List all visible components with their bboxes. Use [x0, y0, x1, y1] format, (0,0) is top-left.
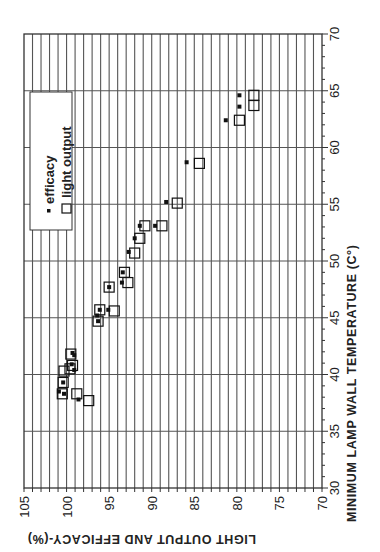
- y-axis-title: LIGHT OUTPUT AND EFFICACY-(%): [27, 532, 256, 546]
- legend: efficacy light output: [30, 92, 74, 230]
- efficacy-point: [164, 200, 168, 204]
- light-output-point: [234, 115, 244, 125]
- efficacy-point: [62, 392, 66, 396]
- legend-label-efficacy: efficacy: [42, 155, 57, 204]
- y-tick-label: 95: [102, 496, 117, 510]
- x-axis-title: MINIMUM LAMP WALL TEMPERATURE (C°): [345, 245, 359, 522]
- x-tick-label: 65: [327, 84, 342, 98]
- efficacy-point: [224, 118, 228, 122]
- scatter-chart: 303540455055606570105100959085807570 eff…: [0, 0, 380, 552]
- light-output-marker-icon: [62, 204, 71, 213]
- x-tick-label: 45: [327, 311, 342, 325]
- x-tick-label: 30: [327, 481, 342, 495]
- efficacy-point: [95, 313, 99, 317]
- legend-label-light-output: light output: [59, 126, 74, 198]
- light-output-point: [157, 221, 167, 231]
- x-tick-label: 50: [327, 254, 342, 268]
- efficacy-point: [121, 270, 125, 274]
- efficacy-point: [76, 397, 80, 401]
- x-tick-label: 70: [327, 27, 342, 41]
- y-tick-label: 75: [272, 496, 287, 510]
- y-tick-label: 85: [187, 496, 202, 510]
- y-tick-label: 90: [145, 496, 160, 510]
- efficacy-point: [107, 285, 111, 289]
- efficacy-point: [96, 319, 100, 323]
- efficacy-point: [237, 105, 241, 109]
- efficacy-point: [98, 308, 102, 312]
- x-tick-label: 55: [327, 197, 342, 211]
- y-tick-label: 105: [17, 496, 32, 518]
- y-tick-label: 80: [230, 496, 245, 510]
- y-tick-label: 100: [60, 496, 75, 518]
- light-output-point: [123, 278, 133, 288]
- light-output-point: [72, 389, 82, 399]
- efficacy-point: [61, 380, 65, 384]
- x-tick-label: 60: [327, 140, 342, 154]
- x-tick-label: 40: [327, 367, 342, 381]
- efficacy-point: [237, 93, 241, 97]
- efficacy-point: [185, 160, 189, 164]
- x-tick-label: 35: [327, 424, 342, 438]
- y-tick-label: 70: [315, 496, 330, 510]
- efficacy-marker-icon: [47, 209, 51, 213]
